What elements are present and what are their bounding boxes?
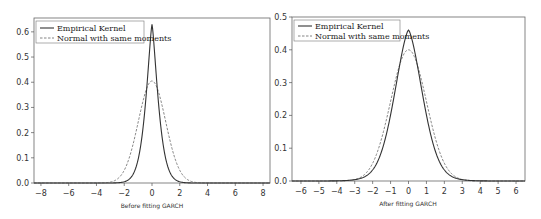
right-plot-frame (292, 17, 525, 181)
left-y-axis: 0.00.10.20.30.40.50.6 (16, 28, 34, 188)
y-tick-label: 0.0 (16, 179, 29, 188)
x-tick-label: −4 (331, 187, 343, 196)
x-tick-label: 8 (261, 189, 266, 198)
x-tick-label: 6 (513, 187, 518, 196)
x-tick-label: 0 (149, 189, 154, 198)
x-tick-label: −6 (295, 187, 307, 196)
x-tick-label: 2 (442, 187, 447, 196)
left-x-axis-label: Before fitting GARCH (121, 202, 184, 210)
x-tick-label: −5 (313, 187, 325, 196)
x-tick-label: −8 (35, 189, 47, 198)
x-tick-label: −6 (63, 189, 75, 198)
legend-empirical-kernel: Empirical Kernel (315, 22, 384, 31)
legend-normal: Normal with same moments (315, 32, 429, 41)
y-tick-label: 0.3 (16, 103, 29, 112)
left-x-axis: −8−6−4−202468 (35, 183, 266, 198)
y-tick-label: 0.5 (16, 53, 29, 62)
y-tick-label: 0.2 (16, 129, 29, 138)
left-normal-curve (34, 81, 270, 183)
x-tick-label: 6 (233, 189, 238, 198)
x-tick-label: −4 (91, 189, 103, 198)
x-tick-label: 4 (478, 187, 483, 196)
right-x-axis: −6−5−4−3−2−10123456 (295, 181, 519, 196)
right-x-axis-label: After fitting GARCH (379, 200, 436, 208)
right-normal-curve (292, 50, 525, 181)
x-tick-label: −2 (118, 189, 130, 198)
x-tick-label: 2 (177, 189, 182, 198)
x-tick-label: 4 (205, 189, 210, 198)
x-tick-label: 3 (460, 187, 465, 196)
y-tick-label: 0.6 (16, 28, 29, 37)
y-tick-label: 0.3 (274, 79, 287, 88)
legend-empirical-kernel: Empirical Kernel (57, 24, 126, 33)
x-tick-label: 0 (406, 187, 411, 196)
figure-canvas: 0.00.10.20.30.40.50.6 −8−6−4−202468 Befo… (0, 0, 541, 219)
x-tick-label: −3 (349, 187, 361, 196)
y-tick-label: 0.4 (16, 78, 29, 87)
right-y-axis: 0.00.10.20.30.40.5 (274, 13, 292, 186)
x-tick-label: −2 (367, 187, 379, 196)
right-empirical-kernel-curve (292, 30, 525, 181)
y-tick-label: 0.1 (16, 154, 29, 163)
y-tick-label: 0.2 (274, 111, 287, 120)
x-tick-label: 1 (424, 187, 429, 196)
x-tick-label: 5 (496, 187, 501, 196)
y-tick-label: 0.4 (274, 46, 287, 55)
right-chart: 0.00.10.20.30.40.5 −6−5−4−3−2−10123456 A… (274, 13, 525, 208)
y-tick-label: 0.1 (274, 144, 287, 153)
x-tick-label: −1 (385, 187, 397, 196)
y-tick-label: 0.5 (274, 13, 287, 22)
left-chart: 0.00.10.20.30.40.50.6 −8−6−4−202468 Befo… (16, 18, 270, 210)
legend-normal: Normal with same moments (57, 34, 171, 43)
left-empirical-kernel-curve (34, 24, 270, 183)
y-tick-label: 0.0 (274, 177, 287, 186)
